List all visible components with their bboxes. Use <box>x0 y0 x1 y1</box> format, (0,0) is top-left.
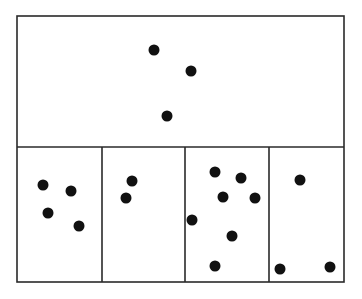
bottom-cell-2 <box>121 176 138 204</box>
dot <box>236 173 247 184</box>
dot <box>218 192 229 203</box>
dot <box>38 180 49 191</box>
bottom-cell-3 <box>187 167 261 272</box>
dot <box>275 264 286 275</box>
dot <box>66 186 77 197</box>
dot <box>149 45 160 56</box>
dot <box>325 262 336 273</box>
dot <box>74 221 85 232</box>
dot <box>250 193 261 204</box>
dot <box>187 215 198 226</box>
dot <box>295 175 306 186</box>
dot <box>210 261 221 272</box>
dot <box>121 193 132 204</box>
dot <box>227 231 238 242</box>
dot <box>43 208 54 219</box>
bottom-cell-4 <box>275 175 336 275</box>
dots-layer <box>38 45 336 275</box>
dot <box>186 66 197 77</box>
bottom-cell-1 <box>38 180 85 232</box>
dot-grid-diagram <box>0 0 362 299</box>
top-cell <box>149 45 197 122</box>
dot <box>210 167 221 178</box>
dot <box>127 176 138 187</box>
dot <box>162 111 173 122</box>
outer-frame <box>17 16 344 282</box>
grid-lines <box>17 16 344 282</box>
